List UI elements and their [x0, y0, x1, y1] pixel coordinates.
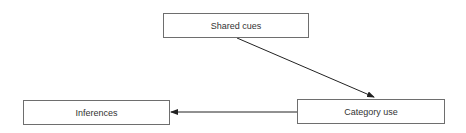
node-inferences: Inferences — [23, 100, 170, 125]
node-label: Category use — [344, 107, 398, 117]
node-category-use: Category use — [297, 99, 445, 124]
node-label: Shared cues — [211, 21, 262, 31]
edge-shared-cues-to-category-use — [237, 38, 374, 97]
node-shared-cues: Shared cues — [163, 13, 309, 38]
node-label: Inferences — [75, 108, 117, 118]
